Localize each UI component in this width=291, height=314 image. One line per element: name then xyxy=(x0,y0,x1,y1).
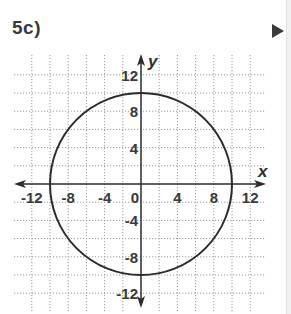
x-tick-label: 12 xyxy=(242,189,259,206)
y-tick-label: 12 xyxy=(121,67,138,84)
x-tick-label: -8 xyxy=(62,189,75,206)
x-tick-label: -12 xyxy=(21,189,43,206)
x-tick-label: 8 xyxy=(210,189,218,206)
y-tick-label: -4 xyxy=(125,212,139,229)
y-axis-label: y xyxy=(147,52,159,71)
y-tick-label: 4 xyxy=(130,140,139,157)
x-axis-label: x xyxy=(257,162,269,181)
x-tick-label: -4 xyxy=(98,189,112,206)
x-tick-label: 4 xyxy=(173,189,182,206)
y-tick-label: 8 xyxy=(130,103,138,120)
y-tick-label: -12 xyxy=(116,285,138,302)
x-tick-label: 0 xyxy=(131,189,139,206)
y-tick-label: -8 xyxy=(125,249,138,266)
coordinate-plane: -12-8-4048121284-4-8-12xy xyxy=(0,0,291,314)
